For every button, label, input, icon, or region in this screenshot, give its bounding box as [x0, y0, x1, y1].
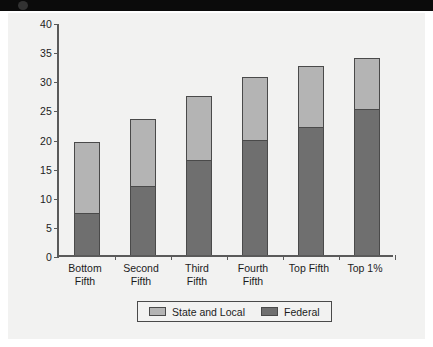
y-tick-mark: [54, 111, 59, 112]
y-tick-label: 35: [40, 47, 52, 59]
federal-swatch: [261, 307, 278, 316]
y-tick-label: 30: [40, 76, 52, 88]
y-tick-mark: [54, 170, 59, 171]
y-tick-mark: [54, 199, 59, 200]
bar-segment-state-and-local: [354, 58, 380, 109]
y-tick-mark: [54, 53, 59, 54]
bar-segment-federal: [298, 127, 324, 255]
y-tick-label: 10: [40, 193, 52, 205]
x-tick-mark: [339, 255, 340, 260]
scan-artifact: [18, 1, 28, 10]
bar-segment-state-and-local: [242, 77, 268, 140]
y-tick-mark: [54, 24, 59, 25]
y-tick-mark: [54, 141, 59, 142]
bar-segment-federal: [186, 160, 212, 255]
bar-segment-state-and-local: [298, 66, 324, 127]
bar-5: [298, 66, 324, 255]
bar-6: [354, 58, 380, 255]
x-axis-label-4: Fourth Fifth: [225, 262, 281, 287]
y-tick-label: 5: [46, 222, 52, 234]
bar-1: [74, 142, 100, 255]
bar-segment-federal: [130, 186, 156, 255]
y-tick-label: 0: [46, 251, 52, 263]
x-axis-label-1: Bottom Fifth: [57, 262, 113, 287]
bar-segment-federal: [242, 140, 268, 255]
chart-legend: State and LocalFederal: [137, 301, 332, 322]
legend-item: Federal: [261, 306, 320, 318]
x-axis-label-6: Top 1%: [337, 262, 393, 275]
y-tick-mark: [54, 257, 59, 258]
bar-segment-federal: [74, 213, 100, 255]
legend-item: State and Local: [149, 306, 245, 318]
x-tick-mark: [283, 255, 284, 260]
bar-4: [242, 77, 268, 255]
page-canvas: 4035302520151050 Bottom FifthSecond Fift…: [0, 0, 433, 347]
stacked-bar-chart: 4035302520151050 Bottom FifthSecond Fift…: [14, 16, 419, 284]
x-axis-label-3: Third Fifth: [169, 262, 225, 287]
legend-label: Federal: [284, 306, 320, 318]
y-tick-label: 40: [40, 18, 52, 30]
bar-2: [130, 119, 156, 255]
bar-segment-federal: [354, 109, 380, 255]
y-tick-mark: [54, 228, 59, 229]
x-axis-label-2: Second Fifth: [113, 262, 169, 287]
plot-area: 4035302520151050: [57, 24, 393, 257]
bar-3: [186, 96, 212, 255]
y-tick-label: 15: [40, 164, 52, 176]
legend-label: State and Local: [172, 306, 245, 318]
y-tick-label: 20: [40, 135, 52, 147]
scan-top-black-band: [0, 0, 433, 11]
x-tick-mark: [171, 255, 172, 260]
y-tick-mark: [54, 82, 59, 83]
state-and-local-swatch: [149, 307, 166, 316]
x-axis-label-5: Top Fifth: [281, 262, 337, 275]
x-tick-mark: [227, 255, 228, 260]
bar-segment-state-and-local: [130, 119, 156, 185]
bar-segment-state-and-local: [74, 142, 100, 213]
x-tick-mark: [395, 255, 396, 260]
x-tick-mark: [115, 255, 116, 260]
y-tick-label: 25: [40, 105, 52, 117]
bar-segment-state-and-local: [186, 96, 212, 160]
